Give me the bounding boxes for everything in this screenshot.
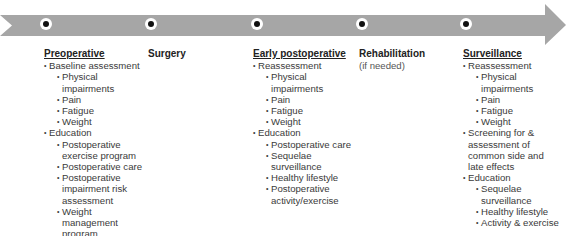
list-item: Weight — [57, 116, 164, 127]
timeline-node-preoperative — [40, 18, 52, 30]
list-item: Baseline assessment Physical impairments… — [44, 60, 164, 127]
list-item: Fatigue — [57, 105, 164, 116]
list-item: Weight management program — [57, 206, 117, 236]
timeline-arrow — [0, 0, 567, 48]
timeline-node-surgery — [145, 18, 157, 30]
phase-subtitle: (if needed) — [359, 60, 449, 71]
list-item: Fatigue — [476, 105, 567, 116]
list-item: Reassessment Physical impairments Pain F… — [253, 60, 368, 127]
list-item: Healthy lifestyle — [266, 172, 368, 183]
timeline-node-rehabilitation — [356, 18, 368, 30]
phase-preoperative: Preoperative Baseline assessment Physica… — [44, 48, 164, 236]
list-item: Postoperative impairment risk assessment — [57, 172, 137, 206]
list-item: Sequelae surveillance — [266, 150, 331, 172]
phase-title: Early postoperative — [253, 48, 368, 59]
list-item: Pain — [476, 94, 567, 105]
list-item: Weight — [266, 116, 368, 127]
phase-early-postoperative: Early postoperative Reassessment Physica… — [253, 48, 368, 206]
list-item: Screening for & assessment of common sid… — [463, 127, 548, 172]
phase-surgery: Surgery — [148, 48, 228, 60]
list-item: Physical impairments — [266, 71, 331, 93]
phase-rehabilitation: Rehabilitation (if needed) — [359, 48, 449, 71]
list-item: Postoperative activity/exercise — [266, 183, 351, 205]
list-item: Physical impairments — [476, 71, 541, 93]
list-item: Healthy lifestyle — [476, 206, 567, 217]
list-item: Postoperative exercise program — [57, 139, 152, 161]
list-item: Physical impairments — [57, 71, 122, 93]
list-item: Sequelae surveillance — [476, 183, 541, 205]
list-item: Postoperative care — [57, 161, 164, 172]
list-item: Education Postoperative care Sequelae su… — [253, 127, 368, 205]
list-item: Pain — [266, 94, 368, 105]
list-item: Education Postoperative exercise program… — [44, 127, 164, 236]
list-item: Activity & exercise — [476, 217, 567, 228]
list-item: Weight — [476, 116, 567, 127]
list-item: Postoperative care — [266, 139, 368, 150]
list-item: Pain — [57, 94, 164, 105]
phase-title: Surveillance — [463, 48, 567, 59]
phase-title: Rehabilitation — [359, 48, 449, 59]
list-item: Education Sequelae surveillance Healthy … — [463, 172, 567, 228]
timeline-node-early-postoperative — [251, 18, 263, 30]
phase-title: Surgery — [148, 48, 228, 59]
list-item: Reassessment Physical impairments Pain F… — [463, 60, 567, 127]
list-item: Fatigue — [266, 105, 368, 116]
timeline-node-surveillance — [460, 18, 472, 30]
phase-surveillance: Surveillance Reassessment Physical impai… — [463, 48, 567, 228]
phase-title: Preoperative — [44, 48, 164, 59]
